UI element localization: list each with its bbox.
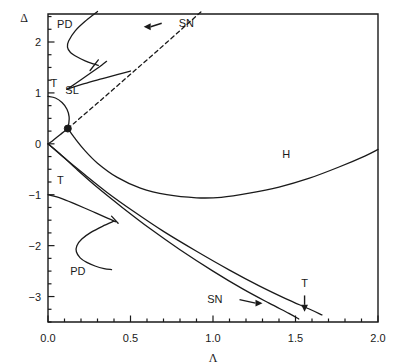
curve-T-upper-loop [48,96,69,128]
curve-SN-lower-right [48,144,322,315]
x-tick-label: 0.0 [40,332,55,344]
annotation-pd-6: PD [70,265,85,277]
curve-H-curve [68,129,378,198]
curve-SN-lower-left [48,144,299,319]
annotation-sn-1: SN [179,17,194,29]
annotation-t-5: T [57,174,64,186]
y-tick-label: −3 [28,291,41,303]
arrow-head [144,23,151,30]
y-tick-label: 0 [35,138,41,150]
x-tick-label: 1.0 [205,332,220,344]
y-tick-label: 2 [35,36,41,48]
arrow-head [256,300,263,307]
curve-SN-dashed [68,11,202,128]
bifurcation-plot: 0.00.51.01.52.0210−1−2−3ΛΔPDSNTSLHTPDSNT [0,0,396,364]
x-axis-label: Λ [209,351,218,364]
y-tick-label: −2 [28,240,41,252]
figure-root: 0.00.51.01.52.0210−1−2−3ΛΔPDSNTSLHTPDSNT [0,0,396,364]
annotation-h-4: H [282,148,290,160]
arrow-shaft [240,300,256,304]
x-tick-label: 0.5 [123,332,138,344]
x-tick-label: 1.5 [288,332,303,344]
annotation-sl-3: SL [65,84,78,96]
annotation-pd-0: PD [57,18,72,30]
curve-T-lower [48,195,116,222]
annotation-t-2: T [50,77,57,89]
y-tick-label: 1 [35,87,41,99]
x-tick-label: 2.0 [370,332,385,344]
top-caption [60,0,270,12]
y-axis-label: Δ [20,11,28,25]
marker-codim-two-point [64,125,71,132]
y-tick-label: −1 [28,189,41,201]
curve-PD-lower [76,221,114,269]
annotation-sn-7: SN [207,293,222,305]
annotation-t-8: T [301,277,308,289]
arrow-shaft [151,23,162,27]
